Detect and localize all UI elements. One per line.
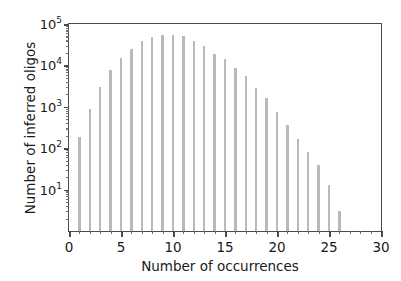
y-tick-minor: [66, 161, 69, 162]
y-tick-minor: [66, 46, 69, 47]
bar: [99, 87, 101, 231]
x-tick-label: 10: [164, 239, 181, 255]
y-tick-minor: [66, 202, 69, 203]
y-tick-minor: [66, 33, 69, 34]
y-tick-minor: [66, 109, 69, 110]
x-tick-label: 0: [65, 239, 74, 255]
bar: [203, 46, 205, 231]
y-tick-minor: [66, 75, 69, 76]
y-tick-minor: [66, 116, 69, 117]
bar: [317, 165, 319, 231]
x-tick-minor: [131, 231, 132, 234]
bar: [120, 58, 122, 231]
y-tick-minor: [66, 40, 69, 41]
x-tick-label: 5: [117, 239, 126, 255]
y-tick-minor: [66, 136, 69, 137]
x-tick-major: [225, 231, 227, 237]
y-tick-minor: [66, 53, 69, 54]
y-tick-minor: [66, 191, 69, 192]
y-tick-minor: [66, 94, 69, 95]
y-tick-minor: [66, 111, 69, 112]
bar: [151, 37, 153, 231]
x-tick-minor: [90, 231, 91, 234]
x-tick-minor: [267, 231, 268, 234]
bar: [307, 152, 309, 231]
y-tick-label: 102: [40, 141, 62, 156]
bar: [161, 35, 163, 231]
x-tick-minor: [204, 231, 205, 234]
y-tick-minor: [66, 152, 69, 153]
y-tick-minor: [66, 211, 69, 212]
y-tick-minor: [66, 150, 69, 151]
y-tick-minor: [66, 155, 69, 156]
x-tick-minor: [183, 231, 184, 234]
y-tick-minor: [66, 28, 69, 29]
x-tick-major: [173, 231, 175, 237]
x-tick-minor: [246, 231, 247, 234]
x-tick-label: 15: [216, 239, 233, 255]
bar-series: [69, 24, 381, 231]
y-tick-label: 105: [40, 17, 62, 32]
y-tick-minor: [66, 87, 69, 88]
bar: [141, 41, 143, 231]
y-tick-minor: [66, 219, 69, 220]
x-tick-minor: [360, 231, 361, 234]
bar: [182, 36, 184, 231]
y-tick-minor: [66, 69, 69, 70]
y-tick-minor: [66, 67, 69, 68]
x-tick-minor: [194, 231, 195, 234]
x-tick-minor: [350, 231, 351, 234]
y-tick-minor: [66, 194, 69, 195]
x-tick-label: 30: [372, 239, 389, 255]
y-tick-minor: [66, 36, 69, 37]
y-tick-label: 104: [40, 58, 62, 73]
x-tick-major: [277, 231, 279, 237]
bar: [286, 125, 288, 231]
plot-area: 101102103104105051015202530: [68, 23, 382, 232]
y-tick-minor: [66, 170, 69, 171]
y-tick-minor: [66, 78, 69, 79]
y-tick-minor: [66, 196, 69, 197]
x-tick-major: [69, 231, 71, 237]
y-tick-minor: [66, 119, 69, 120]
x-tick-minor: [163, 231, 164, 234]
y-tick-minor: [66, 30, 69, 31]
bar: [265, 98, 267, 231]
bar: [130, 49, 132, 231]
y-tick-label: 103: [40, 99, 62, 114]
bar: [276, 112, 278, 231]
bar: [224, 59, 226, 231]
chart-figure: Number of inferred oligos 10110210310410…: [0, 0, 401, 281]
bar: [255, 88, 257, 231]
bar: [109, 70, 111, 231]
x-tick-minor: [152, 231, 153, 234]
x-tick-label: 25: [320, 239, 337, 255]
x-tick-minor: [142, 231, 143, 234]
y-tick-minor: [66, 165, 69, 166]
bar: [89, 109, 91, 231]
x-tick-minor: [79, 231, 80, 234]
x-tick-label: 20: [268, 239, 285, 255]
bar: [245, 76, 247, 231]
y-tick-minor: [66, 123, 69, 124]
y-tick-minor: [66, 72, 69, 73]
x-tick-minor: [308, 231, 309, 234]
y-tick-minor: [66, 177, 69, 178]
x-tick-major: [329, 231, 331, 237]
y-tick-minor: [66, 157, 69, 158]
x-tick-minor: [111, 231, 112, 234]
bar: [78, 137, 80, 231]
x-tick-minor: [319, 231, 320, 234]
y-tick-minor: [66, 206, 69, 207]
bar: [328, 185, 330, 231]
y-tick-minor: [66, 128, 69, 129]
y-tick-label: 101: [40, 182, 62, 197]
x-tick-minor: [235, 231, 236, 234]
y-tick-minor: [66, 199, 69, 200]
x-tick-minor: [100, 231, 101, 234]
x-tick-minor: [339, 231, 340, 234]
x-tick-major: [381, 231, 383, 237]
bar: [172, 35, 174, 231]
bar: [234, 68, 236, 231]
x-axis-title: Number of occurrences: [58, 258, 382, 274]
